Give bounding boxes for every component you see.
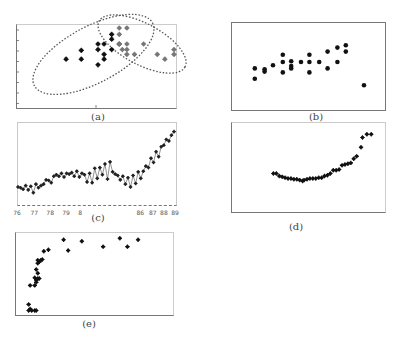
data-point-marker	[136, 238, 140, 242]
chart-e-plot	[0, 0, 395, 347]
data-point-marker	[26, 302, 30, 306]
data-point-marker	[34, 267, 38, 271]
data-point-marker	[66, 248, 70, 252]
data-point-marker	[46, 247, 50, 251]
data-point-marker	[80, 239, 84, 243]
data-point-marker	[125, 244, 129, 248]
data-point-marker	[101, 244, 105, 248]
data-point-marker	[118, 236, 122, 240]
data-point-marker	[36, 271, 40, 275]
data-point-marker	[61, 238, 65, 242]
data-point-marker	[28, 283, 32, 287]
chart-e-caption: (e)	[82, 318, 96, 329]
data-point-marker	[42, 249, 46, 253]
